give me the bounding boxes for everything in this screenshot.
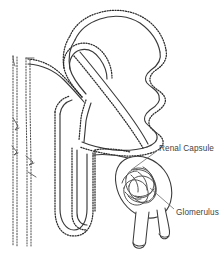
nephron-illustration	[0, 0, 224, 256]
distal-convoluted-tubule-serpentine	[145, 50, 167, 153]
loop-of-henle-neck	[55, 96, 72, 114]
convoluted-tubule-upper-loop	[64, 43, 112, 97]
nephron-diagram: Renal Capsule Glomerulus	[0, 0, 224, 256]
convoluted-tubule-top-arch	[70, 10, 166, 52]
tubule-connector-upper-left	[63, 36, 75, 69]
collecting-duct-right	[26, 58, 36, 246]
collecting-duct-left	[12, 56, 19, 246]
descending-limb-upper	[79, 100, 91, 142]
label-renal-capsule: Renal Capsule	[159, 145, 214, 153]
loop-of-henle-inner	[72, 148, 95, 230]
loop-of-henle-outer	[55, 112, 93, 236]
label-glomerulus: Glomerulus	[176, 209, 219, 217]
